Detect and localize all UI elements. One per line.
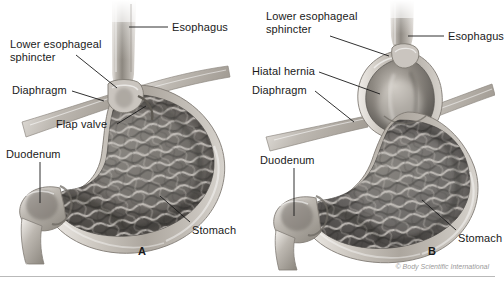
label-stomach-b: Stomach [458,232,502,245]
label-duodenum-a: Duodenum [6,148,61,161]
label-hiatal-hernia-b: Hiatal hernia [252,65,315,78]
panel-letter-a: A [138,245,146,257]
leader-diaphragm-a [72,91,104,101]
bottom-divider-rule [0,276,495,277]
label-stomach-a: Stomach [192,224,236,237]
panel-a-normal-anatomy: Lower esophageal sphincter Esophagus Dia… [0,0,247,283]
esophagus-shape-a [112,0,136,92]
label-diaphragm-b: Diaphragm [252,84,307,97]
leader-diaphragm-b [315,91,354,122]
label-esophagus-b: Esophagus [448,30,504,43]
label-lower-esophageal-sphincter-a: Lower esophageal sphincter [10,38,102,63]
label-flap-valve-a: Flap valve [56,118,107,131]
label-diaphragm-a: Diaphragm [12,84,67,97]
label-duodenum-b: Duodenum [260,154,315,167]
copyright-notice: © Body Scientific International [396,263,490,270]
panel-letter-b: B [428,245,436,257]
label-lower-esophageal-sphincter-b: Lower esophageal sphincter [266,10,358,35]
leader-les-b [330,36,389,56]
label-esophagus-a: Esophagus [172,21,228,34]
panel-b-hiatal-hernia-anatomy: Lower esophageal sphincter Esophagus Hia… [248,0,495,283]
